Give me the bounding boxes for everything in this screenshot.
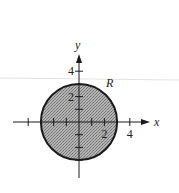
x-tick-label: 4 [127,127,133,141]
y-axis-label: y [74,38,81,52]
scan-artifact-line [0,78,179,80]
x-axis-label: x [153,115,160,129]
disk-diagram: x y R 2424 [0,0,179,193]
x-tick-label: 2 [101,127,107,141]
y-tick-label: 4 [68,64,74,78]
region-label: R [105,76,114,90]
x-axis-arrowhead [141,119,150,125]
y-tick-label: 2 [68,90,74,104]
y-axis-arrowhead [76,54,82,63]
